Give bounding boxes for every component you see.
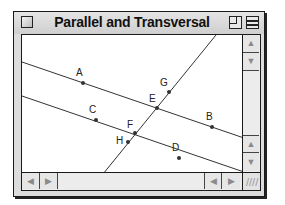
scroll-left-button-right[interactable]: ◀ <box>204 173 222 189</box>
resize-grip[interactable]: //// <box>242 172 261 191</box>
down-arrow-icon: ▼ <box>247 158 256 167</box>
point-D[interactable] <box>177 156 181 160</box>
point-label-D: D <box>172 142 179 153</box>
up-arrow-icon: ▲ <box>247 140 256 149</box>
point-B[interactable] <box>210 125 214 129</box>
point-label-H: H <box>116 135 123 146</box>
resize-grip-icon: //// <box>246 176 258 188</box>
zoom-box-icon[interactable] <box>229 16 242 29</box>
horizontal-scrollbar[interactable]: ◀ ▶ ◀ ▶ <box>21 172 243 191</box>
point-A[interactable] <box>81 81 85 85</box>
right-arrow-icon: ▶ <box>45 177 52 186</box>
point-label-F: F <box>127 119 133 130</box>
right-arrow-icon: ▶ <box>228 177 235 186</box>
point-C[interactable] <box>94 118 98 122</box>
sketch-canvas[interactable]: ABCDEFGH <box>21 34 243 173</box>
point-label-C: C <box>89 104 96 115</box>
window-title: Parallel and Transversal <box>44 14 220 30</box>
scroll-right-button[interactable]: ▶ <box>40 173 58 189</box>
close-box-icon[interactable] <box>21 16 33 28</box>
geometry-window: Parallel and Transversal ABCDEFGH ▲ ▼ ▲ … <box>13 11 265 197</box>
scroll-right-button-right[interactable]: ▶ <box>222 173 240 189</box>
down-arrow-icon: ▼ <box>247 57 256 66</box>
transversal-GH[interactable] <box>103 35 216 173</box>
title-bar[interactable]: Parallel and Transversal <box>14 12 264 34</box>
point-E[interactable] <box>155 106 159 110</box>
point-label-A: A <box>76 67 83 78</box>
point-label-E: E <box>149 93 156 104</box>
point-label-G: G <box>160 77 168 88</box>
point-label-B: B <box>206 111 213 122</box>
left-arrow-icon: ◀ <box>210 177 217 186</box>
point-F[interactable] <box>133 131 137 135</box>
parallel-transversal-diagram[interactable]: ABCDEFGH <box>22 35 243 173</box>
up-arrow-icon: ▲ <box>247 39 256 48</box>
windowshade-box-icon[interactable] <box>246 16 259 29</box>
scroll-down-button[interactable]: ▼ <box>243 53 259 71</box>
point-H[interactable] <box>126 140 130 144</box>
vertical-scrollbar[interactable]: ▲ ▼ ▲ ▼ <box>242 34 261 173</box>
scroll-left-button[interactable]: ◀ <box>22 173 40 189</box>
left-arrow-icon: ◀ <box>27 177 34 186</box>
scroll-down-button-lower[interactable]: ▼ <box>243 153 259 171</box>
scroll-up-button[interactable]: ▲ <box>243 35 259 53</box>
scroll-up-button-lower[interactable]: ▲ <box>243 135 259 153</box>
line-CD[interactable] <box>22 96 243 172</box>
point-G[interactable] <box>167 90 171 94</box>
